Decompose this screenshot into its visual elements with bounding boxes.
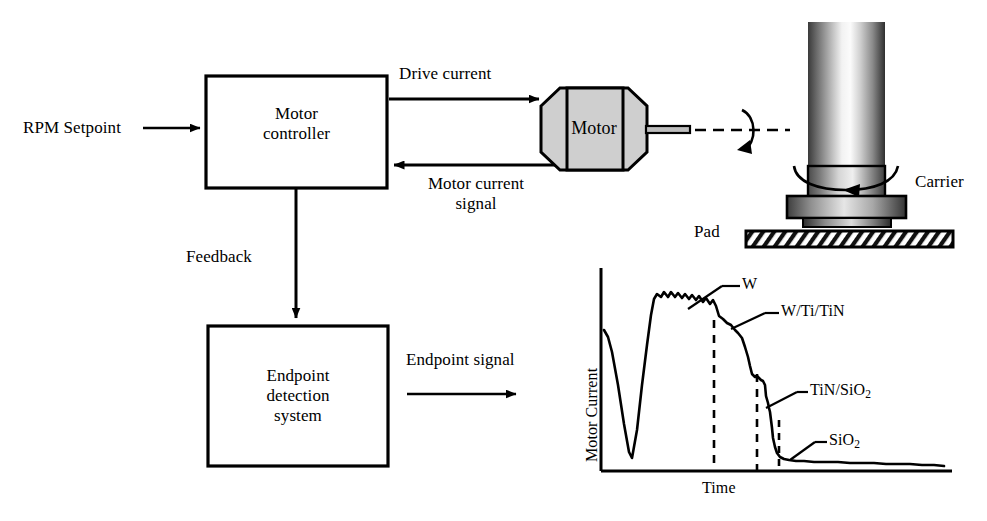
chart-annotation-tin-sio2-sub: 2 [865,388,871,400]
motor-controller-label: Motor controller [206,104,387,144]
endpoint-detection-label-line2: detection [208,386,388,406]
feedback-label: Feedback [186,247,252,267]
pad-label: Pad [694,222,720,242]
chart-annotation-sio2-main: SiO [829,431,854,448]
chart-annotation-tin-sio2: TiN/SiO2 [810,381,871,402]
motor-current-signal-line2: signal [396,194,556,214]
rpm-setpoint-label: RPM Setpoint [23,118,121,138]
polishing-pad [746,231,953,247]
endpoint-detection-label: Endpoint detection system [208,366,388,426]
motor-controller-label-line1: Motor [206,104,387,124]
motor-current-signal-label: Motor current signal [396,174,556,214]
chart-endpoint-markers [714,320,779,471]
endpoint-detection-label-line3: system [208,406,388,426]
chart-y-axis-label: Motor Current [583,368,602,462]
motor-current-signal-line1: Motor current [396,174,556,194]
chart-annotation-sio2-sub: 2 [854,438,860,450]
motor-controller-label-line2: controller [206,124,387,144]
motor-label: Motor [541,118,647,139]
endpoint-signal-label: Endpoint signal [406,350,515,370]
chart-annotation-tin-sio2-main: TiN/SiO [810,381,865,398]
rotation-axis-indicator [695,110,790,154]
chart-annotation-w: W [742,275,757,294]
chart-annotation-w-ti-tin: W/Ti/TiN [781,302,845,321]
diagram-canvas: Motor controller Endpoint detection syst… [0,0,987,521]
motor-shaft [646,126,690,133]
drive-current-label: Drive current [399,64,491,84]
chart-trace-motor-current [604,292,944,466]
endpoint-detection-label-line1: Endpoint [208,366,388,386]
chart-annotation-sio2: SiO2 [829,431,860,452]
carrier-spindle [787,22,906,227]
carrier-label: Carrier [915,172,964,192]
chart-x-axis-label: Time [702,479,736,498]
motor-current-chart [601,268,952,471]
